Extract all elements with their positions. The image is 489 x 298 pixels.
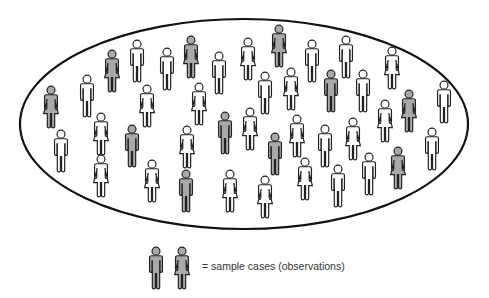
person-male-icon [131, 40, 144, 82]
sampled-person-female-icon [44, 86, 59, 128]
person-male-icon [319, 125, 332, 167]
sampled-person-female-icon [272, 25, 287, 67]
person-male-icon [306, 40, 319, 82]
person-female-icon [378, 100, 393, 142]
sampled-person-male-icon [180, 170, 193, 212]
person-male-icon [55, 130, 68, 172]
person-male-icon [438, 81, 451, 123]
person-female-icon [298, 158, 313, 200]
person-female-icon [290, 115, 305, 157]
person-female-icon [385, 47, 400, 89]
legend-sampled-person-female-icon [175, 247, 190, 289]
person-female-icon [258, 176, 273, 218]
person-female-icon [140, 85, 155, 127]
legend-icons [150, 247, 190, 289]
sampled-person-female-icon [105, 50, 120, 92]
sampled-person-male-icon [219, 112, 232, 154]
person-female-icon [241, 38, 256, 80]
person-female-icon [145, 160, 160, 202]
person-female-icon [243, 108, 258, 150]
sampled-person-female-icon [184, 36, 199, 78]
sampled-person-male-icon [325, 70, 338, 112]
person-male-icon [332, 165, 345, 207]
sampled-person-female-icon [402, 90, 417, 132]
legend-sampled-person-male-icon [150, 247, 163, 289]
person-male-icon [340, 36, 353, 78]
population-figures [44, 25, 451, 218]
person-male-icon [213, 52, 226, 94]
person-female-icon [346, 118, 361, 160]
person-male-icon [357, 70, 370, 112]
sampled-person-male-icon [269, 133, 282, 175]
person-male-icon [81, 75, 94, 117]
person-female-icon [180, 126, 195, 168]
person-male-icon [426, 128, 439, 170]
legend-label: = sample cases (observations) [202, 260, 345, 272]
sampled-person-female-icon [391, 147, 406, 189]
person-female-icon [192, 83, 207, 125]
person-female-icon [94, 113, 109, 155]
person-male-icon [161, 48, 174, 90]
person-male-icon [259, 72, 272, 114]
population-diagram [0, 0, 489, 298]
person-female-icon [223, 170, 238, 212]
person-female-icon [284, 68, 299, 110]
sampled-person-male-icon [126, 125, 139, 167]
person-female-icon [94, 155, 109, 197]
person-male-icon [363, 153, 376, 195]
